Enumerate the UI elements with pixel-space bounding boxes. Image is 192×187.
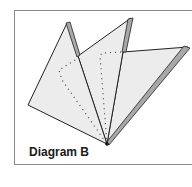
diagram-caption: Diagram B	[29, 145, 89, 159]
bottom-vertex	[105, 142, 109, 146]
